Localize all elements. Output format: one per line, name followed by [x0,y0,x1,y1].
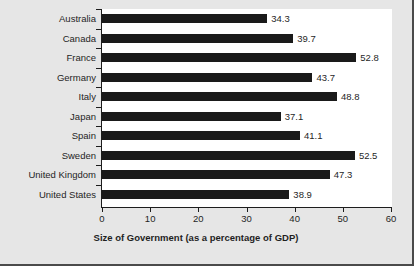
bar-row: Sweden52.5 [0,146,414,166]
x-axis-tick [343,207,344,212]
x-axis-tick [247,207,248,212]
x-axis-tick-label: 60 [376,213,406,224]
bar-row: Germany43.7 [0,68,414,88]
bar [102,53,356,62]
y-axis-tick [96,29,101,30]
bar [102,92,337,101]
y-axis-tick [96,87,101,88]
x-axis-tick [391,207,392,212]
y-axis-tick [96,9,101,10]
y-axis-tick [96,68,101,69]
bar-value-label: 37.1 [285,107,304,127]
y-axis-tick [96,185,101,186]
category-label: Spain [0,126,96,146]
bar [102,131,300,140]
y-axis-tick [96,146,101,147]
bar-row: United States38.9 [0,185,414,205]
x-axis-tick [150,207,151,212]
bar-value-label: 43.7 [316,68,335,88]
bar [102,34,293,43]
category-label: United States [0,185,96,205]
category-label: France [0,48,96,68]
bar-value-label: 47.3 [334,165,353,185]
x-axis-tick-label: 20 [183,213,213,224]
bar-value-label: 48.8 [341,87,360,107]
bar-value-label: 41.1 [304,126,323,146]
y-axis-tick [96,48,101,49]
bar [102,112,281,121]
bar-row: Canada39.7 [0,29,414,49]
x-axis-tick-label: 40 [280,213,310,224]
bar-row: United Kingdom47.3 [0,165,414,185]
x-axis-tick-label: 0 [87,213,117,224]
x-axis-tick-label: 30 [232,213,262,224]
chart-figure: Australia34.3Canada39.7France52.8Germany… [0,0,414,266]
x-axis-tick [198,207,199,212]
category-label: Canada [0,29,96,49]
x-axis-tick-label: 50 [328,213,358,224]
category-label: Australia [0,9,96,29]
bar-row: Australia34.3 [0,9,414,29]
bar-row: Japan37.1 [0,107,414,127]
bar [102,190,289,199]
category-label: Sweden [0,146,96,166]
bar [102,170,330,179]
x-axis-title: Size of Government (as a percentage of G… [0,232,414,243]
bar [102,73,312,82]
bar-value-label: 52.5 [359,146,378,166]
bar-value-label: 34.3 [271,9,290,29]
category-label: Germany [0,68,96,88]
bar [102,151,355,160]
x-axis-tick [102,207,103,212]
bar-value-label: 52.8 [360,48,379,68]
x-axis-tick [295,207,296,212]
bar [102,14,267,23]
y-axis-tick [96,107,101,108]
bar-value-label: 38.9 [293,185,312,205]
bar-row: Italy48.8 [0,87,414,107]
x-axis-tick-label: 10 [135,213,165,224]
bar-value-label: 39.7 [297,29,316,49]
bar-row: Spain41.1 [0,126,414,146]
category-label: Japan [0,107,96,127]
y-axis-tick [96,165,101,166]
category-label: Italy [0,87,96,107]
category-label: United Kingdom [0,165,96,185]
bar-row: France52.8 [0,48,414,68]
y-axis-tick [96,126,101,127]
